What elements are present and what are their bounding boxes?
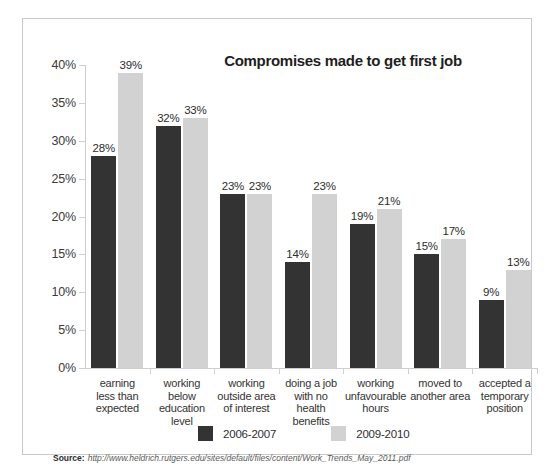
y-axis-tick-label: 10% <box>52 285 76 299</box>
legend-label: 2009-2010 <box>356 428 409 440</box>
legend-item-2006-2007: 2006-2007 <box>198 426 276 441</box>
bar-value-label: 17% <box>442 225 464 237</box>
bar-value-label: 39% <box>120 59 142 71</box>
y-axis-tick <box>79 254 85 255</box>
legend-swatch-icon <box>198 426 213 441</box>
y-axis-tick-label: 40% <box>52 58 76 72</box>
bar-value-label: 23% <box>313 180 335 192</box>
x-axis-category-label: working outside area of interest <box>214 377 279 415</box>
y-axis-tick-label: 15% <box>52 247 76 261</box>
bar-value-label: 15% <box>415 240 437 252</box>
x-axis-category-label: doing a job with no health benefits <box>279 377 344 427</box>
bar-1-1: 33% <box>183 118 208 368</box>
y-axis-tick <box>79 103 85 104</box>
y-axis-tick-label: 5% <box>58 323 76 337</box>
source-url: http://www.heldrich.rutgers.edu/sites/de… <box>88 453 411 463</box>
bar-value-label: 33% <box>184 104 206 116</box>
bar-1-5: 17% <box>441 239 466 368</box>
bar-1-4: 21% <box>377 209 402 368</box>
chart-legend: 2006-2007 2009-2010 <box>198 426 409 441</box>
bar-value-label: 19% <box>351 210 373 222</box>
x-axis-separator-tick <box>214 368 215 374</box>
y-axis-tick-label: 25% <box>52 172 76 186</box>
bar-value-label: 13% <box>507 256 529 268</box>
bar-0-2: 23% <box>220 194 245 368</box>
y-axis-tick-label: 30% <box>52 134 76 148</box>
chart-panel: Compromises made to get first job 40%35%… <box>22 18 532 455</box>
bar-0-6: 9% <box>479 300 504 368</box>
bar-1-2: 23% <box>247 194 272 368</box>
y-axis-tick <box>79 179 85 180</box>
source-footer: Source:http://www.heldrich.rutgers.edu/s… <box>53 453 411 463</box>
x-axis-separator-tick <box>279 368 280 374</box>
bar-1-0: 39% <box>118 73 143 368</box>
chart-figure: Compromises made to get first job 40%35%… <box>0 0 555 473</box>
y-axis-tick <box>79 368 85 369</box>
legend-swatch-icon <box>331 426 346 441</box>
y-axis-tick <box>79 217 85 218</box>
bar-0-0: 28% <box>91 156 116 368</box>
x-axis-category-label: accepted a temporary position <box>472 377 537 415</box>
y-axis-tick <box>79 292 85 293</box>
bar-1-6: 13% <box>506 270 531 368</box>
y-axis-tick-label: 0% <box>58 361 76 375</box>
source-label: Source: <box>53 453 85 463</box>
x-axis-separator-tick <box>408 368 409 374</box>
x-axis-separator-tick <box>472 368 473 374</box>
bar-value-label: 32% <box>157 112 179 124</box>
bar-value-label: 14% <box>286 248 308 260</box>
legend-label: 2006-2007 <box>223 428 276 440</box>
bar-value-label: 23% <box>222 180 244 192</box>
bar-1-3: 23% <box>312 194 337 368</box>
bar-0-1: 32% <box>156 126 181 368</box>
y-axis-tick-label: 35% <box>52 96 76 110</box>
x-axis-separator-tick <box>343 368 344 374</box>
x-axis-separator-tick <box>150 368 151 374</box>
x-axis-category-label: working unfavourable hours <box>343 377 408 415</box>
bar-value-label: 21% <box>378 195 400 207</box>
x-axis-category-label: working below education level <box>150 377 215 427</box>
bar-value-label: 28% <box>93 142 115 154</box>
bar-0-3: 14% <box>285 262 310 368</box>
y-axis-tick <box>79 65 85 66</box>
x-axis-line <box>85 368 538 369</box>
x-axis-category-label: earning less than expected <box>85 377 150 415</box>
x-axis-category-label: moved to another area <box>408 377 473 402</box>
plot-area: 40%35%30%25%20%15%10%5%0% 28%39%earning … <box>85 65 537 368</box>
legend-item-2009-2010: 2009-2010 <box>331 426 409 441</box>
bar-value-label: 9% <box>483 286 499 298</box>
x-axis-separator-tick <box>537 368 538 374</box>
y-axis-tick-label: 20% <box>52 210 76 224</box>
bar-0-4: 19% <box>350 224 375 368</box>
bar-value-label: 23% <box>249 180 271 192</box>
bar-0-5: 15% <box>414 254 439 368</box>
y-axis-tick <box>79 330 85 331</box>
y-axis-tick <box>79 141 85 142</box>
